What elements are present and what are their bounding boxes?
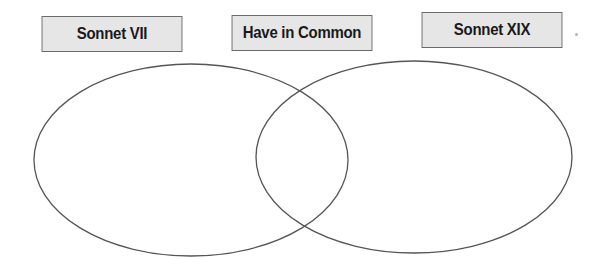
sonnet-xix-ellipse [256,61,572,253]
sonnet-vii-ellipse [34,64,348,256]
venn-diagram [0,0,604,269]
